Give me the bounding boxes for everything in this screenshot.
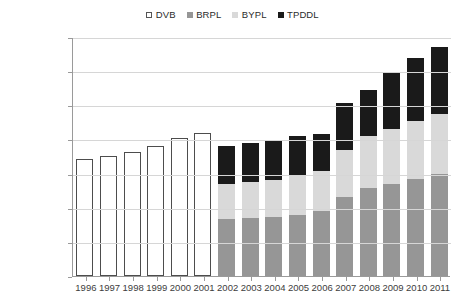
x-axis-tick	[393, 277, 394, 281]
y-axis-tick	[68, 277, 72, 278]
legend-label: TPDDL	[287, 9, 319, 20]
bar-segment-tpddl	[289, 136, 306, 176]
y-axis-tick	[68, 243, 72, 244]
y-axis-tick	[68, 38, 72, 39]
x-axis-tick	[180, 277, 181, 281]
bar-segment-dvb	[124, 152, 141, 276]
gridline	[73, 72, 451, 73]
x-axis-label: 1998	[123, 282, 140, 293]
x-axis-tick	[109, 277, 110, 281]
x-axis-tick	[133, 277, 134, 281]
x-axis-label: 1997	[99, 282, 116, 293]
bar-segment-brpl	[383, 184, 400, 276]
x-axis-tick	[275, 277, 276, 281]
gridline	[73, 209, 451, 210]
x-axis-tick	[86, 277, 87, 281]
bar-segment-brpl	[242, 218, 259, 276]
bar-segment-bypl	[265, 180, 282, 217]
x-axis-label: 2010	[406, 282, 423, 293]
bar-segment-tpddl	[242, 143, 259, 182]
gridline	[73, 175, 451, 176]
bar-segment-brpl	[218, 219, 235, 276]
gridline	[73, 38, 451, 39]
x-axis-label: 1996	[75, 282, 92, 293]
x-axis-label: 2002	[217, 282, 234, 293]
x-axis-tick	[298, 277, 299, 281]
bar-segment-dvb	[147, 146, 164, 276]
legend-swatch-bypl-icon	[232, 12, 238, 18]
x-axis-label: 2004	[264, 282, 281, 293]
bar-segment-dvb	[76, 159, 93, 276]
x-axis-tick	[440, 277, 441, 281]
y-axis-tick	[68, 140, 72, 141]
bar-segment-bypl	[360, 136, 377, 188]
x-axis-label: 2011	[430, 282, 447, 293]
bar-segment-tpddl	[431, 47, 448, 113]
x-axis-label: 2009	[382, 282, 399, 293]
bar-segment-dvb	[171, 138, 188, 276]
bar-segment-bypl	[313, 171, 330, 211]
y-axis-tick	[68, 209, 72, 210]
bar-segment-bypl	[242, 182, 259, 218]
legend-label: BYPL	[242, 9, 267, 20]
x-axis-label: 2000	[170, 282, 187, 293]
x-axis-labels: 1996199719981999200020012002200320042005…	[72, 282, 450, 293]
stacked-column-chart: DVBBRPLBYPLTPDDL 19961997199819992000200…	[0, 0, 465, 306]
bar-segment-bypl	[407, 121, 424, 179]
legend-swatch-tpddl-icon	[278, 12, 284, 18]
bar-segment-brpl	[265, 217, 282, 276]
bar-segment-tpddl	[336, 103, 353, 150]
y-axis-tick	[68, 175, 72, 176]
legend-label: DVB	[156, 9, 176, 20]
gridline	[73, 140, 451, 141]
bar-segment-bypl	[218, 184, 235, 220]
bar-segment-dvb	[194, 133, 211, 276]
x-axis-label: 2001	[193, 282, 210, 293]
x-axis-tick	[417, 277, 418, 281]
y-axis-tick	[68, 72, 72, 73]
x-axis-label: 1999	[146, 282, 163, 293]
legend-label: BRPL	[196, 9, 221, 20]
bar-segment-brpl	[360, 188, 377, 276]
x-axis-label: 2005	[288, 282, 305, 293]
legend-item-bypl[interactable]: BYPL	[232, 9, 266, 20]
chart-legend: DVBBRPLBYPLTPDDL	[0, 9, 465, 20]
x-axis-tick	[369, 277, 370, 281]
x-axis-tick	[251, 277, 252, 281]
x-axis-label: 2006	[312, 282, 329, 293]
x-axis-tick	[346, 277, 347, 281]
bar-segment-brpl	[289, 215, 306, 276]
legend-item-brpl[interactable]: BRPL	[187, 9, 222, 20]
bar-segment-tpddl	[360, 90, 377, 136]
bar-segment-brpl	[407, 179, 424, 276]
bar-segment-bypl	[383, 129, 400, 184]
gridline	[73, 243, 451, 244]
gridline	[73, 106, 451, 107]
y-axis-tick	[68, 106, 72, 107]
bar-segment-brpl	[431, 174, 448, 276]
bar-segment-tpddl	[218, 146, 235, 184]
bar-segment-bypl	[431, 114, 448, 174]
legend-swatch-dvb-icon	[146, 12, 152, 18]
legend-item-dvb[interactable]: DVB	[146, 9, 175, 20]
x-axis-tick	[322, 277, 323, 281]
plot-area	[72, 38, 450, 277]
x-axis-tick	[228, 277, 229, 281]
x-axis-tick	[204, 277, 205, 281]
x-axis-label: 2008	[359, 282, 376, 293]
bar-segment-tpddl	[407, 58, 424, 122]
x-axis-label: 2003	[241, 282, 258, 293]
x-axis-label: 2007	[335, 282, 352, 293]
legend-item-tpddl[interactable]: TPDDL	[278, 9, 319, 20]
bar-segment-tpddl	[383, 73, 400, 130]
legend-swatch-brpl-icon	[187, 12, 193, 18]
x-axis-tick	[157, 277, 158, 281]
